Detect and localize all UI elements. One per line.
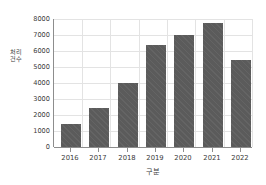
x-axis-tick bbox=[98, 148, 99, 152]
plot-area bbox=[53, 19, 252, 147]
y-tick-label: 7000 bbox=[24, 32, 50, 39]
y-axis-title: 처리건수 bbox=[9, 48, 23, 62]
x-axis-tick bbox=[127, 148, 128, 152]
x-axis-tick bbox=[70, 148, 71, 152]
x-axis-tick bbox=[183, 148, 184, 152]
x-axis-tick bbox=[155, 148, 156, 152]
gridline-vertical bbox=[252, 19, 253, 147]
bars-layer bbox=[54, 19, 252, 147]
x-axis-title: 구분 bbox=[0, 167, 266, 176]
x-tick-label: 2022 bbox=[223, 154, 257, 162]
bar-2016 bbox=[61, 124, 81, 147]
bar-chart: 처리건수 8000 7000 6000 5000 4000 3000 2000 … bbox=[0, 0, 266, 185]
y-tick-label: 8000 bbox=[24, 16, 50, 23]
x-axis-tick bbox=[240, 148, 241, 152]
y-tick-label: 2000 bbox=[24, 112, 50, 119]
bar-2021 bbox=[203, 23, 223, 147]
bar-2022 bbox=[231, 60, 251, 147]
bar-2018 bbox=[118, 83, 138, 147]
bar-2017 bbox=[89, 108, 109, 147]
y-tick-label: 5000 bbox=[24, 64, 50, 71]
x-axis-tick bbox=[212, 148, 213, 152]
x-axis-line bbox=[54, 147, 252, 148]
y-tick-label: 6000 bbox=[24, 48, 50, 55]
y-tick-label: 0 bbox=[24, 144, 50, 151]
y-tick-label: 1000 bbox=[24, 128, 50, 135]
y-tick-label: 3000 bbox=[24, 96, 50, 103]
bar-2019 bbox=[146, 45, 166, 147]
bar-2020 bbox=[174, 35, 194, 147]
y-tick-label: 4000 bbox=[24, 80, 50, 87]
y-axis-tick-labels: 8000 7000 6000 5000 4000 3000 2000 1000 … bbox=[24, 0, 50, 185]
